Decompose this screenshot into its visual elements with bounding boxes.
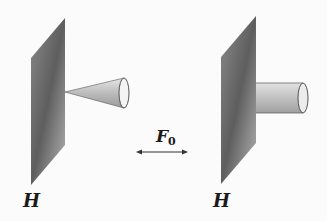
left-plate [31,18,65,185]
cylinder-object [256,83,308,113]
left-plate-label: H [23,190,40,211]
diagram-svg [0,0,327,221]
force-label: F0 [156,126,176,148]
right-plate [221,16,256,184]
force-symbol: F [156,126,168,146]
force-arrow [136,150,188,155]
right-plate-label: H [213,190,230,211]
diagram-canvas: F0 H H [0,0,327,221]
cone-object [65,78,129,108]
force-subscript: 0 [168,135,176,148]
